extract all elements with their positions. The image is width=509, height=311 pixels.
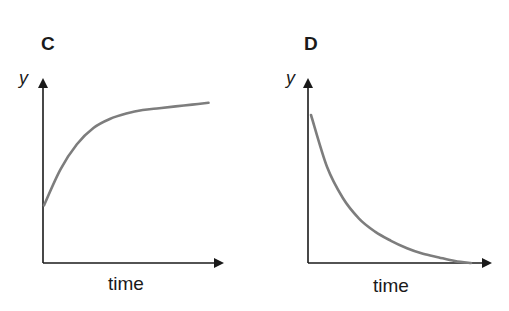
chart-d-plot [254,0,509,311]
chart-c-plot [0,0,254,311]
x-axis-label-c: time [108,273,144,295]
growth-curve [44,103,209,206]
panel-label-c: C [41,33,55,55]
y-axis-label-c: y [19,68,28,89]
x-axis-label-d: time [373,275,409,297]
y-axis-label-d: y [286,68,295,89]
panel-label-d: D [304,33,318,55]
chart-panel-d: D y time [254,0,509,311]
chart-panel-c: C y time [0,0,254,311]
decay-curve [311,115,471,263]
